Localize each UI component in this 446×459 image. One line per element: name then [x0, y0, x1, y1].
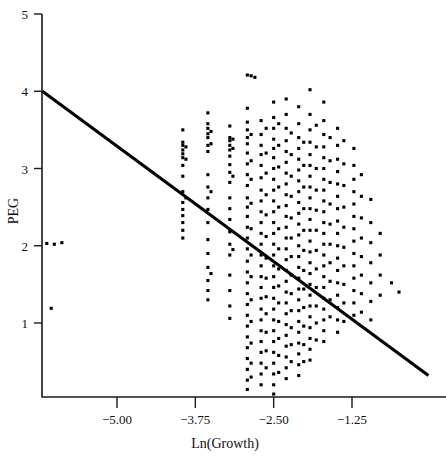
scatter-point	[246, 236, 249, 239]
scatter-point	[265, 349, 268, 352]
scatter-point	[360, 236, 363, 239]
scatter-point	[308, 348, 311, 351]
scatter-points	[45, 73, 400, 395]
scatter-point	[302, 343, 305, 346]
x-tick-label: −5.00	[102, 412, 132, 427]
scatter-point	[209, 272, 212, 275]
scatter-point	[302, 325, 305, 328]
scatter-point	[250, 253, 253, 256]
scatter-point	[322, 275, 325, 278]
scatter-point	[228, 274, 231, 277]
scatter-point	[272, 199, 275, 202]
scatter-point	[285, 215, 288, 218]
scatter-point	[260, 297, 263, 300]
scatter-point	[285, 226, 288, 229]
scatter-point	[336, 281, 339, 284]
scatter-point	[308, 88, 311, 91]
scatter-point	[342, 184, 345, 187]
scatter-point	[228, 163, 231, 166]
scatter-point	[302, 249, 305, 252]
scatter-point	[336, 144, 339, 147]
scatter-point	[308, 315, 311, 318]
scatter-point	[336, 158, 339, 161]
scatter-point	[342, 301, 345, 304]
scatter-point	[228, 196, 231, 199]
scatter-point	[297, 105, 300, 108]
scatter-point	[206, 150, 209, 153]
x-tick-label: −3.75	[180, 412, 210, 427]
scatter-point	[290, 131, 293, 134]
scatter-point	[290, 360, 293, 363]
scatter-point	[302, 164, 305, 167]
y-axis-ticks	[34, 14, 42, 323]
scatter-point	[302, 269, 305, 272]
scatter-point	[246, 226, 249, 229]
scatter-point	[260, 383, 263, 386]
scatter-point	[265, 366, 268, 369]
scatter-point	[342, 320, 345, 323]
scatter-point	[231, 248, 234, 251]
scatter-point	[285, 97, 288, 100]
scatter-point	[302, 185, 305, 188]
scatter-point	[277, 165, 280, 168]
scatter-point	[228, 218, 231, 221]
scatter-point	[250, 74, 253, 77]
scatter-point	[246, 206, 249, 209]
scatter-point	[308, 294, 311, 297]
scatter-point	[352, 178, 355, 181]
scatter-point	[329, 280, 332, 283]
scatter-point	[315, 229, 318, 232]
scatter-point	[315, 286, 318, 289]
scatter-point	[322, 145, 325, 148]
scatter-point	[308, 153, 311, 156]
scatter-point	[260, 210, 263, 213]
scatter-point	[336, 269, 339, 272]
scatter-point	[315, 209, 318, 212]
scatter-point	[260, 133, 263, 136]
scatter-point	[277, 206, 280, 209]
scatter-point	[285, 150, 288, 153]
scatter-point	[322, 119, 325, 122]
scatter-point	[260, 372, 263, 375]
scatter-point	[329, 243, 332, 246]
scatter-point	[272, 297, 275, 300]
scatter-point	[246, 215, 249, 218]
y-tick-label: 5	[22, 7, 29, 22]
scatter-point	[285, 323, 288, 326]
scatter-point	[297, 233, 300, 236]
scatter-point	[228, 148, 231, 151]
scatter-point	[246, 173, 249, 176]
scatter-point	[297, 168, 300, 171]
scatter-point	[297, 320, 300, 323]
scatter-point	[297, 255, 300, 258]
scatter-point	[342, 264, 345, 267]
scatter-point	[285, 182, 288, 185]
scatter-point	[250, 275, 253, 278]
scatter-point	[260, 351, 263, 354]
scatter-point	[277, 337, 280, 340]
scatter-point	[246, 281, 249, 284]
scatter-point	[297, 363, 300, 366]
scatter-point	[308, 283, 311, 286]
scatter-point	[285, 247, 288, 250]
scatter-point	[206, 122, 209, 125]
scatter-point	[297, 158, 300, 161]
scatter-point	[265, 331, 268, 334]
scatter-point	[352, 202, 355, 205]
scatter-point	[206, 279, 209, 282]
scatter-point	[50, 307, 53, 310]
scatter-point	[308, 229, 311, 232]
scatter-point	[246, 292, 249, 295]
scatter-point	[246, 152, 249, 155]
scatter-point	[308, 196, 311, 199]
scatter-point	[272, 362, 275, 365]
scatter-point	[272, 351, 275, 354]
scatter-point	[277, 122, 280, 125]
scatter-point	[329, 261, 332, 264]
scatter-point	[250, 133, 253, 136]
scatter-point	[260, 232, 263, 235]
y-tick-label: 1	[22, 316, 29, 331]
scatter-point	[206, 127, 209, 130]
scatter-point	[308, 250, 311, 253]
scatter-point	[297, 136, 300, 139]
